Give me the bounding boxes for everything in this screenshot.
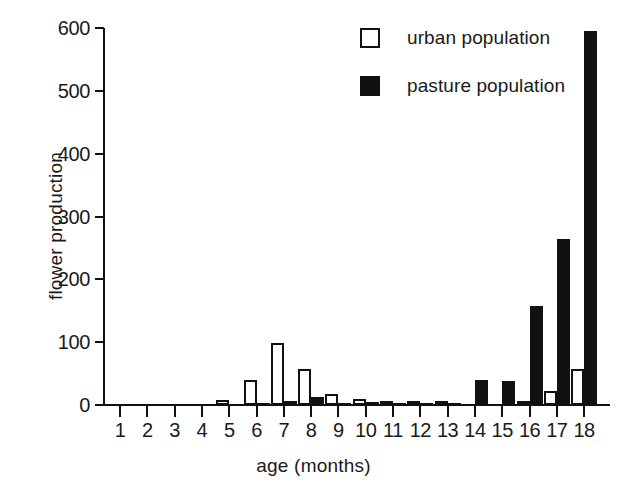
legend-label-urban: urban population [407,27,550,49]
x-tick-label: 17 [546,419,567,441]
bar-urban-month-8 [298,369,311,405]
x-tick-label: 12 [410,419,431,441]
x-tick-mark [256,406,258,417]
bar-urban-month-17 [544,391,557,405]
bar-pasture-month-9 [338,403,351,406]
x-tick-label: 5 [224,419,235,441]
bar-urban-month-12 [407,401,420,405]
x-tick-mark [228,406,230,417]
x-tick-mark [337,406,339,417]
x-tick-label: 8 [306,419,317,441]
x-tick-mark [501,406,503,417]
flower-production-bar-chart: 0100200300400500600 12345678910111213141… [0,0,627,490]
x-axis-title: age (months) [0,455,627,477]
bar-pasture-month-16 [530,306,543,405]
x-tick-mark [201,406,203,417]
x-tick-mark [419,406,421,417]
legend-item-pasture: pasture population [360,70,565,102]
x-tick-mark [146,406,148,417]
x-tick-label: 10 [355,419,376,441]
bar-urban-month-16 [517,401,530,405]
x-tick-mark [447,406,449,417]
bar-pasture-month-7 [284,401,297,405]
bar-pasture-month-14 [475,380,488,405]
bar-pasture-month-10 [366,402,379,405]
y-axis-title: flower production [45,106,67,346]
legend-swatch-open-square-icon [360,28,380,48]
bar-pasture-month-11 [393,403,406,406]
x-tick-label: 14 [464,419,485,441]
bar-urban-month-18 [571,369,584,405]
x-tick-label: 11 [383,419,403,441]
x-tick-label: 18 [573,419,594,441]
chart-legend: urban population pasture population [360,22,565,118]
x-tick-label: 1 [115,419,126,441]
bar-pasture-month-12 [420,403,433,406]
bar-pasture-month-17 [557,239,570,406]
x-tick-mark [174,406,176,417]
legend-item-urban: urban population [360,22,565,54]
x-tick-mark [583,406,585,417]
x-tick-label: 16 [519,419,540,441]
x-tick-label: 2 [142,419,153,441]
bar-urban-month-9 [325,394,338,405]
x-tick-label: 9 [333,419,344,441]
bar-urban-month-6 [244,380,257,405]
bar-pasture-month-18 [584,31,597,405]
y-tick-label: 500 [58,81,90,101]
bar-pasture-month-15 [502,381,515,405]
bar-pasture-month-13 [448,403,461,406]
x-tick-label: 15 [492,419,513,441]
x-tick-mark [283,406,285,417]
x-tick-mark [474,406,476,417]
y-tick-label: 600 [58,18,90,38]
x-tick-mark [310,406,312,417]
x-tick-label: 3 [169,419,180,441]
bar-urban-month-13 [435,401,448,405]
bar-urban-month-11 [380,401,393,405]
x-tick-mark [529,406,531,417]
bar-urban-month-5 [216,400,229,405]
bar-urban-month-10 [353,399,366,405]
x-tick-label: 6 [251,419,262,441]
x-tick-mark [556,406,558,417]
x-tick-label: 7 [278,419,289,441]
legend-label-pasture: pasture population [407,75,565,97]
bar-pasture-month-8 [311,397,324,405]
bar-urban-month-7 [271,343,284,405]
legend-swatch-filled-square-icon [360,76,380,96]
x-tick-label: 13 [437,419,458,441]
bar-pasture-month-6 [257,403,270,406]
x-tick-label: 4 [197,419,208,441]
x-tick-mark [119,406,121,417]
x-tick-mark [392,406,394,417]
x-tick-mark [365,406,367,417]
y-tick-label: 0 [79,395,90,415]
